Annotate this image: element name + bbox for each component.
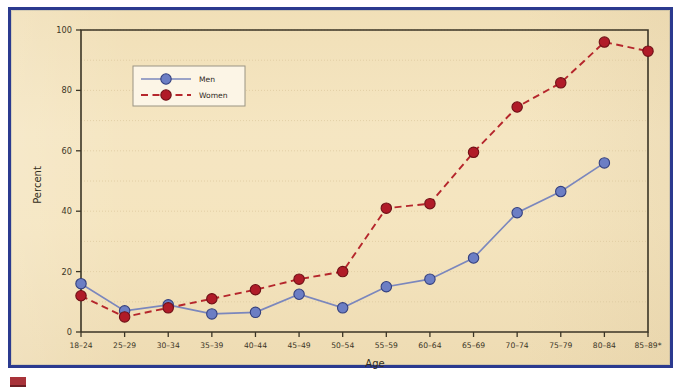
figure-container: 020406080100 18–2425–2930–3435–3940–4445… [0, 0, 681, 392]
x-tick-label: 70–74 [506, 341, 529, 350]
legend-marker-men [161, 74, 171, 84]
data-point-men [250, 307, 260, 317]
y-tick-group: 020406080100 [56, 25, 81, 337]
data-point-women [119, 312, 129, 322]
x-tick-label: 85–89* [635, 341, 662, 350]
x-tick-label: 60–64 [418, 341, 441, 350]
legend-marker-women [161, 90, 171, 100]
x-tick-label: 50–54 [331, 341, 354, 350]
x-axis-title: Age [365, 358, 384, 369]
x-tick-group: 18–2425–2930–3435–3940–4445–4950–5455–59… [69, 332, 661, 350]
data-point-women [76, 291, 86, 301]
data-point-men [294, 289, 304, 299]
data-point-women [643, 46, 653, 56]
x-tick-label: 45–49 [288, 341, 311, 350]
data-point-women [556, 78, 566, 88]
data-point-men [468, 253, 478, 263]
data-point-men [556, 186, 566, 196]
data-point-men [337, 303, 347, 313]
x-tick-label: 55–59 [375, 341, 398, 350]
data-point-women [381, 203, 391, 213]
corner-color-mark [10, 377, 26, 387]
series-line-men [81, 163, 604, 314]
data-point-men [599, 158, 609, 168]
x-tick-label: 18–24 [69, 341, 92, 350]
x-tick-label: 35–39 [200, 341, 223, 350]
data-point-men [207, 309, 217, 319]
x-tick-label: 65–69 [462, 341, 485, 350]
data-point-women [207, 294, 217, 304]
legend-label-men: Men [199, 75, 215, 84]
x-tick-label: 80–84 [593, 341, 616, 350]
data-point-men [425, 274, 435, 284]
x-tick-label: 25–29 [113, 341, 136, 350]
data-point-men [512, 208, 522, 218]
data-point-women [250, 285, 260, 295]
x-tick-label: 30–34 [157, 341, 180, 350]
line-chart: 020406080100 18–2425–2930–3435–3940–4445… [0, 0, 681, 392]
y-tick-label: 0 [67, 327, 72, 337]
data-point-women [425, 198, 435, 208]
legend-label-women: Women [199, 91, 228, 100]
y-axis-title: Percent [32, 166, 43, 204]
y-tick-label: 60 [62, 146, 72, 156]
data-point-men [381, 282, 391, 292]
data-point-women [163, 303, 173, 313]
data-point-women [599, 37, 609, 47]
x-tick-label: 75–79 [549, 341, 572, 350]
data-point-men [76, 278, 86, 288]
data-point-women [512, 102, 522, 112]
data-point-women [468, 147, 478, 157]
y-tick-label: 100 [56, 25, 72, 35]
x-tick-label: 40–44 [244, 341, 267, 350]
y-tick-label: 20 [62, 267, 72, 277]
chart-legend: MenWomen [133, 66, 245, 106]
y-tick-label: 80 [62, 85, 72, 95]
legend-background [133, 66, 245, 106]
data-point-women [294, 274, 304, 284]
y-tick-label: 40 [62, 206, 72, 216]
data-point-women [337, 266, 347, 276]
